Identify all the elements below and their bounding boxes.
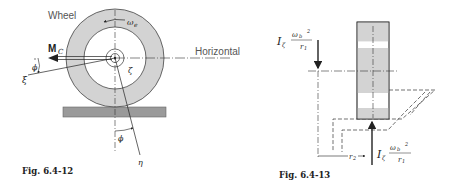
horizontal-label: Horizontal	[195, 46, 240, 57]
top-omega-subscript: b	[299, 33, 302, 39]
phi-left-label: ϕ	[32, 63, 38, 72]
moment-arrow-head	[48, 54, 58, 62]
figure-caption-6-4-12: Fig. 6.4-12	[22, 166, 73, 176]
r2-subscript: 2	[352, 155, 356, 161]
wheel-label: Wheel	[48, 10, 76, 21]
top-I-subscript: ζ	[282, 41, 286, 49]
figure-caption-6-4-13: Fig. 6.4-13	[279, 170, 330, 180]
moment-label: M	[48, 43, 56, 54]
top-r-subscript: 1	[304, 45, 307, 51]
bottom-I-subscript: ζ	[382, 154, 386, 162]
top-omega: ω	[292, 31, 298, 39]
bottom-omega-superscript: 2	[404, 141, 408, 147]
figure-6-4-13: I ζ ω b 2 r 1 I ζ ω b 2 r 1 r 2 Fig. 6.4…	[276, 22, 435, 180]
moment-subscript: C	[58, 48, 64, 56]
omega-label: ω	[127, 18, 134, 27]
figure-6-4-12: Wheel Horizontal M C ω e ϕ ξ ζ ϕ η Fig. …	[22, 9, 240, 176]
xi-label: ξ	[22, 75, 28, 85]
bottom-omega-subscript: b	[397, 146, 400, 152]
phi-arc-left	[38, 58, 40, 73]
phi-bottom-label: ϕ	[118, 134, 124, 143]
ground-bar	[63, 107, 166, 117]
zeta-label: ζ	[128, 66, 133, 75]
diagram-canvas: Wheel Horizontal M C ω e ϕ ξ ζ ϕ η Fig. …	[0, 0, 456, 180]
phi-arc-bottom	[115, 128, 133, 131]
bottom-omega: ω	[390, 144, 396, 152]
top-omega-superscript: 2	[306, 28, 310, 34]
bottom-r-subscript: 1	[402, 158, 405, 164]
omega-subscript: e	[134, 21, 138, 28]
eta-label: η	[138, 158, 143, 167]
